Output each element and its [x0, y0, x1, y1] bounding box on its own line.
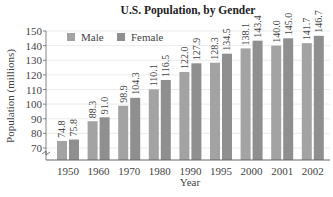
x-tick-label: 2000 [241, 165, 264, 177]
bar-value-label: 138.1 [240, 23, 251, 46]
bar-female [161, 80, 171, 160]
y-tick-label: 140 [26, 40, 43, 52]
y-axis-label: Population (millions) [4, 49, 17, 143]
legend-swatch-female [117, 33, 125, 41]
bar-male [302, 43, 312, 160]
y-tick-label: 110 [26, 84, 43, 96]
legend-label-male: Male [81, 31, 104, 43]
bar-male [271, 46, 281, 160]
x-tick-label: 2002 [302, 165, 324, 177]
bar-value-label: 140.0 [271, 20, 282, 43]
bar-male [241, 48, 251, 160]
y-axis: 708090100110120130140150 [26, 25, 51, 160]
bar-male [118, 106, 128, 160]
bar-male [88, 121, 98, 160]
bar-value-label: 91.0 [99, 97, 110, 115]
bar-value-label: 75.8 [69, 119, 80, 137]
bar-male [57, 141, 67, 160]
bar-female [314, 36, 324, 160]
y-tick-label: 90 [31, 113, 43, 125]
axis-break-icon [42, 151, 50, 155]
bar-male [149, 89, 159, 160]
x-tick-label: 2001 [271, 165, 293, 177]
bar-female [100, 117, 110, 160]
bar-female [69, 140, 79, 160]
bar-value-label: 145.0 [283, 13, 294, 36]
bar-female [222, 54, 232, 160]
bar-value-label: 122.0 [179, 46, 190, 69]
bar-female [130, 98, 140, 160]
bar-female [191, 63, 201, 160]
y-tick-label: 150 [26, 25, 43, 37]
bar-value-label: 88.3 [87, 101, 98, 119]
bar-value-label: 143.4 [252, 15, 263, 38]
x-axis: 195019601970198019901995200020012002 [46, 160, 330, 177]
x-tick-label: 1980 [149, 165, 172, 177]
x-axis-label: Year [180, 176, 201, 188]
bar-value-label: 141.7 [301, 18, 312, 41]
bar-value-label: 134.5 [222, 28, 233, 51]
bar-male [179, 72, 189, 160]
bar-value-label: 128.3 [210, 37, 221, 60]
population-bar-chart: U.S. Population, by Gender 7080901001101… [0, 0, 333, 197]
y-tick-label: 130 [26, 54, 43, 66]
bar-value-label: 116.5 [160, 55, 171, 77]
bar-value-label: 104.3 [130, 72, 141, 95]
y-tick-label: 70 [31, 142, 43, 154]
bar-value-label: 74.8 [57, 120, 68, 138]
x-tick-label: 1970 [118, 165, 141, 177]
legend: Male Female [67, 31, 163, 43]
bar-male [210, 63, 220, 160]
y-tick-label: 120 [26, 69, 43, 81]
x-tick-label: 1960 [88, 165, 111, 177]
y-tick-label: 100 [26, 98, 43, 110]
bar-value-label: 98.9 [118, 85, 129, 103]
chart-title: U.S. Population, by Gender [121, 4, 256, 17]
x-tick-label: 1995 [210, 165, 233, 177]
bar-value-label: 110.1 [148, 64, 159, 86]
bar-value-label: 127.9 [191, 38, 202, 61]
bar-female [253, 41, 263, 160]
bar-value-label: 146.7 [313, 10, 324, 33]
x-tick-label: 1950 [57, 165, 80, 177]
legend-swatch-male [67, 33, 75, 41]
y-tick-label: 80 [31, 127, 43, 139]
bar-female [283, 38, 293, 160]
legend-label-female: Female [131, 31, 163, 43]
